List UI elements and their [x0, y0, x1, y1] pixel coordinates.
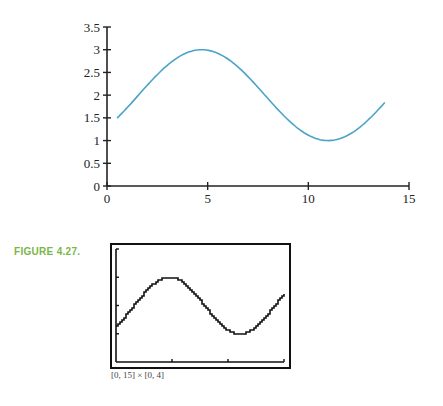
- calc-curve: [116, 278, 284, 334]
- window-caption: [0, 15] × [0, 4]: [111, 370, 164, 380]
- calc-ticks: [116, 249, 284, 362]
- screen-frame-outer: [111, 244, 290, 368]
- calculator-screen: [0, 0, 443, 406]
